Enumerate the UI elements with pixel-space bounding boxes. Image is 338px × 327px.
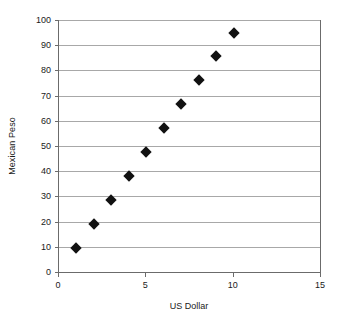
x-tick-mark-5 bbox=[145, 272, 146, 277]
y-tick-label-40: 40 bbox=[41, 166, 51, 176]
gridline-y-40 bbox=[59, 171, 321, 172]
y-tick-label-0: 0 bbox=[46, 267, 51, 277]
scatter-chart: Mexican Peso 0102030405060708090100 US D… bbox=[0, 0, 338, 327]
gridline-y-10 bbox=[59, 247, 321, 248]
y-tick-label-80: 80 bbox=[41, 65, 51, 75]
x-tick-mark-10 bbox=[233, 272, 234, 277]
y-axis-title: Mexican Peso bbox=[0, 0, 24, 292]
plot-frame-right-edge bbox=[320, 20, 321, 272]
y-tick-label-70: 70 bbox=[41, 91, 51, 101]
x-tick-label-0: 0 bbox=[55, 280, 60, 290]
x-tick-label-10: 10 bbox=[228, 280, 238, 290]
data-point-marker bbox=[158, 123, 169, 134]
x-tick-label-15: 15 bbox=[315, 280, 325, 290]
y-tick-mark-70 bbox=[55, 96, 59, 97]
y-tick-label-50: 50 bbox=[41, 141, 51, 151]
x-tick-label-5: 5 bbox=[143, 280, 148, 290]
y-tick-mark-90 bbox=[55, 45, 59, 46]
y-tick-label-10: 10 bbox=[41, 242, 51, 252]
gridline-y-30 bbox=[59, 196, 321, 197]
x-tick-mark-15 bbox=[320, 272, 321, 277]
y-tick-label-60: 60 bbox=[41, 116, 51, 126]
y-tick-label-90: 90 bbox=[41, 40, 51, 50]
y-tick-mark-60 bbox=[55, 121, 59, 122]
x-axis-title: US Dollar bbox=[58, 301, 320, 311]
gridline-y-100 bbox=[59, 20, 321, 21]
y-tick-label-30: 30 bbox=[41, 191, 51, 201]
plot-area bbox=[58, 20, 321, 272]
y-tick-mark-50 bbox=[55, 146, 59, 147]
data-point-marker bbox=[141, 146, 152, 157]
gridline-y-90 bbox=[59, 45, 321, 46]
y-tick-label-20: 20 bbox=[41, 217, 51, 227]
gridline-y-80 bbox=[59, 70, 321, 71]
gridline-y-60 bbox=[59, 121, 321, 122]
data-point-marker bbox=[88, 218, 99, 229]
y-tick-mark-30 bbox=[55, 196, 59, 197]
y-axis-tick-labels: 0102030405060708090100 bbox=[24, 14, 56, 272]
data-point-marker bbox=[71, 242, 82, 253]
x-axis-line bbox=[58, 272, 321, 273]
y-tick-mark-100 bbox=[55, 20, 59, 21]
data-point-marker bbox=[228, 27, 239, 38]
y-tick-mark-80 bbox=[55, 70, 59, 71]
y-tick-mark-10 bbox=[55, 247, 59, 248]
x-tick-mark-0 bbox=[58, 272, 59, 277]
data-point-marker bbox=[211, 50, 222, 61]
y-tick-label-100: 100 bbox=[36, 15, 51, 25]
y-axis-title-label: Mexican Peso bbox=[7, 117, 17, 175]
y-tick-mark-40 bbox=[55, 171, 59, 172]
gridline-y-70 bbox=[59, 96, 321, 97]
data-point-marker bbox=[193, 75, 204, 86]
y-tick-mark-20 bbox=[55, 222, 59, 223]
gridline-y-50 bbox=[59, 146, 321, 147]
data-point-marker bbox=[176, 98, 187, 109]
